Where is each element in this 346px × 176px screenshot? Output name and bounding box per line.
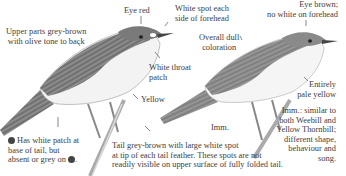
note-line: song. bbox=[276, 154, 336, 164]
label-yellow: Yellow bbox=[141, 95, 165, 105]
label-line: White throat bbox=[149, 63, 191, 73]
label-forehead-spot: White spot each side of forehead bbox=[175, 4, 229, 23]
label-line: Entirely bbox=[297, 80, 336, 90]
note-line: both Weebill and bbox=[276, 116, 336, 126]
female-symbol-icon bbox=[68, 156, 75, 163]
caption-line: Tail grey-brown with large white spot bbox=[112, 141, 283, 151]
label-line: White spot each bbox=[175, 4, 229, 14]
imm-note: Imm.: similar to both Weebill and Yellow… bbox=[276, 106, 336, 164]
label-line: patch bbox=[149, 73, 191, 83]
label-eye-brown: Eye brown; no white on forehead bbox=[267, 0, 338, 19]
label-line: coloration bbox=[199, 43, 239, 53]
male-symbol-icon bbox=[8, 137, 15, 144]
label-upperparts: Upper parts grey-brown with olive tone t… bbox=[6, 27, 86, 46]
caption-line: readily visible on upper surface of full… bbox=[112, 160, 283, 170]
label-line: with olive tone to back bbox=[6, 37, 86, 47]
note-line: different shape, bbox=[276, 135, 336, 145]
label-line: pale yellow bbox=[297, 90, 336, 100]
label-dull-coloration: Overall dull coloration bbox=[199, 33, 239, 52]
label-line: Overall dull bbox=[199, 33, 239, 43]
label-line: side of forehead bbox=[175, 14, 229, 24]
note-line: behaviour and bbox=[276, 144, 336, 154]
label-line: Upper parts grey-brown bbox=[6, 27, 86, 37]
tail-caption: Tail grey-brown with large white spot at… bbox=[112, 141, 283, 170]
label-line: Eye brown; bbox=[267, 0, 338, 10]
tail-patch-note: Has white patch at base of tail, but abs… bbox=[8, 136, 79, 165]
note-line: Imm.: similar to bbox=[276, 106, 336, 116]
label-line: no white on forehead bbox=[267, 10, 338, 20]
label-pale-yellow: Entirely pale yellow bbox=[297, 80, 336, 99]
caption-line: at tip of each tail feather. These spots… bbox=[112, 151, 283, 161]
label-white-throat: White throat patch bbox=[149, 63, 191, 82]
note-line: base of tail, but bbox=[8, 146, 79, 156]
note-line: absent or grey on bbox=[8, 155, 66, 164]
label-imm: Imm. bbox=[211, 123, 229, 133]
note-line: Yellow Thornbill; bbox=[276, 125, 336, 135]
note-line: Has white patch at bbox=[17, 136, 79, 145]
label-eye-red: Eye red bbox=[124, 6, 150, 16]
